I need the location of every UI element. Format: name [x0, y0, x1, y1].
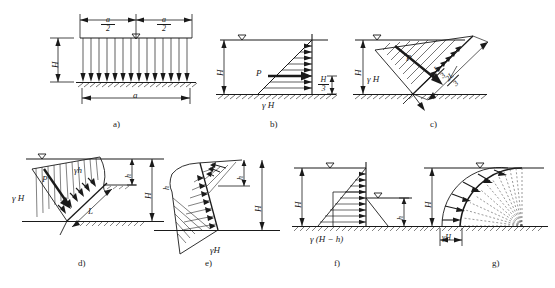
pressure-arrows-g — [442, 170, 504, 220]
caption-g: g) — [492, 258, 500, 268]
water-table-icon-d — [38, 154, 46, 159]
water-table-icon-downstream-f — [374, 193, 382, 198]
height-label-f: H — [293, 202, 303, 209]
pressure-arrowheads-b — [304, 44, 312, 91]
pressure-arrowheads-lower-e — [197, 175, 216, 229]
panel-g: H γH — [418, 150, 553, 255]
pressure-hypotenuse-b — [258, 40, 312, 94]
water-table-icon-b — [238, 35, 246, 40]
base-pressure-label-f: γ (H − h) — [310, 234, 343, 244]
base-pressure-label-b: γ H — [262, 100, 274, 110]
height-label-e: H — [253, 206, 263, 213]
water-table-icon-g — [476, 163, 484, 168]
base-pressure-label-g: γH — [442, 233, 451, 242]
lower-left-e — [172, 192, 180, 254]
base-pressure-label-c: γ H — [367, 74, 379, 84]
panel-f: H h γ (H − h) — [288, 150, 433, 255]
pressure-hypotenuse-f — [318, 168, 366, 226]
caption-c: c) — [430, 119, 437, 129]
ground-hatch-d — [74, 222, 144, 226]
resultant-label-d: P — [42, 174, 48, 184]
resultant-arrowhead-b — [301, 72, 312, 81]
caption-a: a) — [113, 119, 120, 129]
panel-c: H γ H P L 3 2L 3 — [345, 8, 520, 108]
panel-e: h H h γH — [150, 150, 295, 265]
height-label-a: H — [50, 62, 60, 69]
depth-label-e: h — [162, 186, 171, 190]
panel-b: H P γ H H 3 — [200, 8, 345, 108]
water-table-icon-f — [326, 163, 334, 168]
base-pressure-label-e: γH — [210, 245, 220, 255]
inner-hatch-d — [107, 186, 129, 189]
depth-label2-e: h — [236, 176, 245, 180]
water-table-icon-c — [373, 35, 381, 40]
panel-a-drawing — [40, 8, 210, 108]
reaction-arrowhead-c — [417, 102, 425, 111]
panel-b-drawing — [200, 8, 345, 108]
width-label-a: a — [133, 90, 138, 100]
centroid-label-b: H 3 — [317, 76, 330, 93]
ground-hatch-f — [294, 227, 424, 231]
panel-c-drawing — [345, 8, 520, 108]
wall-extension-c — [403, 94, 413, 104]
caption-d: d) — [78, 258, 86, 268]
depth-label-f: h — [396, 216, 405, 220]
ground-hatch-a — [78, 83, 197, 87]
resultant-label-c: P — [406, 53, 412, 63]
resultant-force-c — [395, 46, 437, 80]
ground-hatch-g — [424, 227, 542, 231]
downstream-pressure-f — [366, 198, 388, 226]
length-label-d: L — [88, 206, 93, 216]
height-dimension-e — [218, 160, 262, 230]
dimension-half-a-right: a 2 — [156, 16, 172, 33]
wall-extension-d — [60, 221, 67, 235]
pressure-arrowheads-f — [359, 172, 366, 224]
ground-hatch-b — [218, 95, 337, 99]
curved-surface-d — [100, 157, 108, 193]
dimension-half-a-left: a 2 — [100, 16, 116, 33]
pressure-arrowheads-a — [80, 73, 189, 82]
depth-label-d: h — [124, 174, 133, 178]
height-dimension-a — [50, 38, 74, 82]
height-label-c: H — [353, 70, 363, 77]
pressure-envelope-g — [442, 167, 508, 226]
height-dimension-arrows-e — [242, 160, 265, 230]
caption-b: b) — [270, 119, 278, 129]
caption-e: e) — [205, 258, 212, 268]
panel-e-drawing — [150, 150, 295, 265]
resultant-label-b: P — [256, 68, 262, 78]
height-label-b: H — [215, 70, 225, 77]
height-label-g: H — [423, 202, 433, 209]
panel-g-drawing — [418, 150, 553, 255]
pressure-distribution-a — [83, 38, 187, 78]
panel-a: a 2 a 2 H a — [40, 8, 210, 108]
upper-pressure-label-d: γh — [74, 165, 82, 175]
caption-f: f) — [334, 258, 340, 268]
base-pressure-label-d: γ H — [12, 193, 24, 203]
